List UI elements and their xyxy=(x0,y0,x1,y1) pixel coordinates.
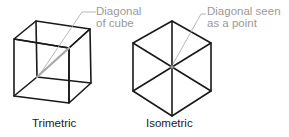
isometric-callout: Diagonal seen as a point xyxy=(207,5,281,29)
trimetric-callout-line1: Diagonal xyxy=(96,5,141,17)
trimetric-callout-line2: of cube xyxy=(96,17,141,29)
isometric-caption: Isometric xyxy=(146,117,193,129)
trimetric-caption: Trimetric xyxy=(32,117,76,129)
isometric-callout-line1: Diagonal seen xyxy=(207,5,281,17)
trimetric-top-face xyxy=(14,21,90,48)
trimetric-leader-line xyxy=(40,12,96,74)
trimetric-callout: Diagonal of cube xyxy=(96,5,141,29)
trimetric-back-left-edge xyxy=(36,21,37,77)
projection-comparison-figure: Diagonal of cube Diagonal seen as a poin… xyxy=(0,0,289,137)
isometric-callout-line2: as a point xyxy=(207,17,281,29)
trimetric-back-bottom-left-edge xyxy=(14,77,37,96)
trimetric-back-bottom-edge xyxy=(37,77,91,83)
trimetric-right-face xyxy=(69,29,91,103)
isometric-diagonal-point xyxy=(170,65,174,69)
trimetric-diagonal-line xyxy=(37,48,69,77)
